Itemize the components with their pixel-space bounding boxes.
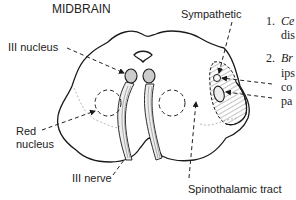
item1-word: Ce [281,14,295,28]
leader-iii-nucleus [67,48,124,73]
item1-line2: dis [281,28,295,42]
label-sympathetic: Sympathetic [181,8,242,20]
item2-line4: pa [281,94,293,108]
item2-word: Br [281,51,293,65]
red-nucleus-right [159,90,185,116]
cerebral-aqueduct [134,51,152,62]
red-nucleus-left [95,90,121,116]
leader-spinothalamic [189,102,196,178]
label-red-nucleus-2: nucleus [16,138,54,150]
item2-number: 2. [266,51,275,65]
iii-nerve-right [144,84,162,160]
leader-red-nucleus [42,111,95,130]
diagram-title: MIDBRAIN [52,2,111,16]
item2-line2: ips [281,66,295,80]
midbrain-diagram: MIDBRAIN III nucleus Red nucleus III ner… [0,0,296,200]
iii-nucleus-right [143,69,155,83]
iii-nucleus-left [125,69,137,83]
sympathetic-fibers [214,75,221,82]
label-iii-nerve: III nerve [72,172,112,184]
item2-line3: co [281,80,292,94]
label-iii-nucleus: III nucleus [8,41,59,53]
label-red-nucleus-1: Red [16,125,36,137]
label-spinothalamic: Spinothalamic tract [188,183,282,195]
item1-number: 1. [266,14,275,28]
